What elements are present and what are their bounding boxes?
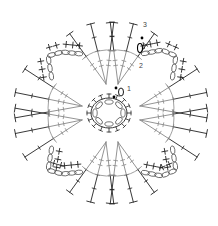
stitch-cross-bar <box>122 165 126 166</box>
single-crochet-stem <box>180 61 186 62</box>
bottom-petal-inner-stitch <box>118 142 126 175</box>
single-crochet-stem <box>160 165 161 171</box>
stitch-top-bar <box>151 31 157 36</box>
single-crochet-stem <box>78 161 79 167</box>
ring-spike <box>93 100 96 103</box>
round-label-1: 1 <box>127 85 131 92</box>
single-crochet-stem <box>64 163 65 169</box>
stitch-top-bar <box>151 190 157 195</box>
stitch-cross-bar <box>163 108 164 112</box>
right-petal-inner-stitch <box>140 106 173 112</box>
stitch-cross-bar <box>190 109 191 113</box>
bottom-petal-inner-stitch <box>98 142 106 175</box>
center-chain <box>121 109 125 117</box>
right-petal-inner-stitch <box>140 114 173 120</box>
top-left-corner-chain <box>46 55 52 64</box>
stitch-cross-bar <box>92 37 96 38</box>
stitch-cross-bar <box>63 100 64 104</box>
single-crochet-stem <box>178 77 184 78</box>
ring-spike <box>116 127 118 131</box>
top-petal-inner-stitch <box>98 51 106 84</box>
single-crochet-stem <box>72 42 73 48</box>
ring-spike <box>122 124 125 127</box>
stitch-top-bar <box>23 66 27 73</box>
start-marker-dot <box>113 96 116 99</box>
ring-spike <box>122 100 125 103</box>
stitch-cross-bar <box>158 122 159 126</box>
stitch-cross-bar <box>158 115 159 119</box>
stitch-top-bar <box>23 154 27 161</box>
single-crochet-stem <box>150 41 151 47</box>
ring-spike <box>101 95 103 99</box>
stitch-cross-bar <box>158 107 159 111</box>
top-petal-inner-stitch <box>114 50 118 84</box>
stitch-cross-bar <box>32 94 33 98</box>
top-petal-inner-stitch <box>118 56 138 84</box>
start-marker-dot <box>141 37 144 40</box>
stitch-top-bar <box>195 66 199 73</box>
single-crochet-stem <box>162 151 168 152</box>
bottom-left-corner-chain <box>48 145 54 154</box>
stitch-cross-bar <box>121 160 125 161</box>
stitch-cross-bar <box>128 37 132 38</box>
top-left-corner-chain <box>48 71 54 80</box>
crochet-diagram: 1 2 3 <box>0 0 218 226</box>
ring-spike <box>93 124 96 127</box>
bottom-left-corner-chain <box>47 153 53 162</box>
top-left-corner-chain <box>74 51 83 56</box>
single-crochet-stem <box>55 159 61 160</box>
left-petal-inner-stitch <box>49 106 82 112</box>
single-crochet-stem <box>56 151 62 152</box>
bottom-petal-inner-stitch <box>86 142 106 170</box>
single-crochet-stem <box>179 69 185 70</box>
stitch-cross-bar <box>163 114 164 118</box>
stitch-cross-bar <box>32 128 33 132</box>
single-crochet-stem <box>38 61 44 62</box>
stitch-cross-bar <box>58 108 59 112</box>
stitch-cross-bar <box>58 114 59 118</box>
bottom-petal-inner-stitch <box>106 142 110 176</box>
stitch-cross-bar <box>98 165 102 166</box>
stitch-cross-bar <box>99 65 103 66</box>
left-petal-inner-stitch <box>49 114 82 120</box>
stitch-top-bar <box>66 190 72 195</box>
single-crochet-stem <box>40 77 46 78</box>
stitch-cross-bar <box>163 99 164 103</box>
stitch-cross-bar <box>31 113 32 117</box>
single-crochet-stem <box>79 43 80 49</box>
center-chain <box>105 122 113 126</box>
round-label-3: 3 <box>143 21 147 28</box>
bottom-right-corner-chain <box>170 145 176 154</box>
ring-spike <box>126 119 130 121</box>
bottom-petal-inner-stitch <box>118 142 138 170</box>
stitch-cross-bar <box>99 160 103 161</box>
stitch-cross-bar <box>190 128 191 132</box>
crochet-motif <box>14 22 207 204</box>
start-marker-dot <box>115 87 118 90</box>
stitch-cross-bar <box>63 122 64 126</box>
stitch-cross-bar <box>163 123 164 127</box>
stitch-cross-bar <box>63 107 64 111</box>
ring-spike <box>89 119 93 121</box>
top-right-corner-chain <box>170 71 176 80</box>
stitch-cross-bar <box>158 100 159 104</box>
center-chain <box>93 109 97 117</box>
single-crochet-stem <box>164 167 170 168</box>
top-left-corner-chain <box>47 63 53 72</box>
stitch-cross-bar <box>128 188 132 189</box>
single-crochet-stem <box>143 43 144 49</box>
top-right-corner-chain <box>171 63 177 72</box>
single-crochet-stem <box>157 40 158 46</box>
stitch-cross-bar <box>92 188 96 189</box>
start-loop-1 <box>119 88 124 96</box>
top-petal-inner-stitch <box>106 50 110 84</box>
bottom-left-corner-chain <box>46 161 52 170</box>
stitch-top-bar <box>66 31 72 36</box>
center-chain <box>105 100 113 104</box>
single-crochet-stem <box>163 159 169 160</box>
round-label-2: 2 <box>139 62 143 69</box>
stitch-top-bar <box>195 154 199 161</box>
top-petal-inner-stitch <box>118 51 126 84</box>
ring-spike <box>116 95 118 99</box>
start-loop-2 <box>138 44 143 53</box>
